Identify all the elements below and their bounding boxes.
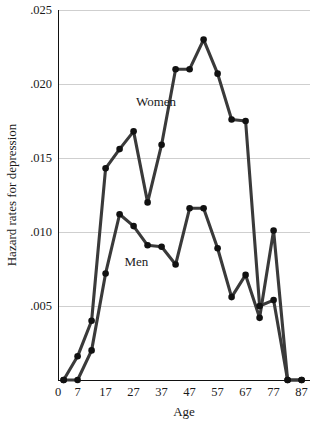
y-tick-label-.010: .010 (30, 225, 52, 239)
series-annotations-group: WomenMen (124, 94, 176, 269)
series-label-women: Women (136, 94, 177, 109)
data-point-women-age-27 (130, 128, 137, 135)
series-group (64, 40, 302, 380)
data-point-men-age-87 (298, 377, 305, 384)
data-point-women-age-47 (186, 66, 193, 73)
y-axis-tick-labels: .005.010.015.020.025 (30, 3, 52, 313)
x-tick-label-17: 17 (99, 385, 112, 399)
data-point-women-age-67 (242, 118, 249, 125)
data-point-women-age-57 (214, 70, 221, 77)
data-point-women-age-62 (228, 116, 235, 123)
axis-titles-group: AgeHazard rates for depression (4, 123, 195, 419)
x-tick-label-7: 7 (74, 385, 80, 399)
x-tick-label-37: 37 (155, 385, 168, 399)
chart-figure: WomenMen 071727374757677787 .005.010.015… (0, 0, 333, 425)
data-point-men-age-72 (256, 315, 263, 322)
x-tick-label-77: 77 (267, 385, 280, 399)
data-point-women-age-7 (74, 353, 81, 360)
data-point-women-age-32 (144, 199, 151, 206)
data-point-women-age-42 (172, 66, 179, 73)
data-point-men-age-62 (228, 294, 235, 301)
x-tick-label-47: 47 (183, 385, 196, 399)
data-point-men-age-7 (74, 377, 81, 384)
series-label-men: Men (124, 254, 148, 269)
data-point-women-age-52 (200, 36, 207, 43)
data-point-men-age-47 (186, 205, 193, 212)
data-point-men-age-2 (60, 377, 67, 384)
data-point-men-age-57 (214, 245, 221, 252)
markers-group (60, 36, 305, 383)
data-point-men-age-22 (116, 211, 123, 218)
chart-plot-area: WomenMen 071727374757677787 .005.010.015… (0, 0, 333, 425)
data-point-women-age-22 (116, 146, 123, 153)
series-line-women (64, 40, 302, 380)
data-point-women-age-72 (256, 303, 263, 310)
data-point-men-age-77 (270, 227, 277, 234)
x-axis-title: Age (173, 404, 195, 419)
x-tick-label-27: 27 (127, 385, 140, 399)
y-tick-label-.020: .020 (30, 77, 52, 91)
data-point-men-age-52 (200, 205, 207, 212)
data-point-women-age-37 (158, 141, 165, 148)
x-tick-label-0: 0 (55, 385, 61, 399)
y-tick-label-.015: .015 (30, 151, 52, 165)
data-point-men-age-42 (172, 261, 179, 268)
x-tick-label-67: 67 (239, 385, 252, 399)
x-tick-label-87: 87 (295, 385, 308, 399)
data-point-men-age-12 (88, 347, 95, 354)
data-point-men-age-67 (242, 272, 249, 279)
data-point-women-age-17 (102, 165, 109, 172)
data-point-men-age-17 (102, 270, 109, 277)
y-axis-title: Hazard rates for depression (4, 123, 19, 266)
y-tick-label-.025: .025 (30, 3, 52, 17)
data-point-women-age-77 (270, 297, 277, 304)
data-point-women-age-12 (88, 318, 95, 325)
y-tick-label-.005: .005 (30, 299, 52, 313)
data-point-men-age-82 (284, 377, 291, 384)
x-axis-tick-labels: 071727374757677787 (55, 385, 308, 399)
data-point-men-age-27 (130, 223, 137, 230)
data-point-men-age-32 (144, 242, 151, 249)
x-tick-label-57: 57 (211, 385, 224, 399)
data-point-men-age-37 (158, 244, 165, 251)
